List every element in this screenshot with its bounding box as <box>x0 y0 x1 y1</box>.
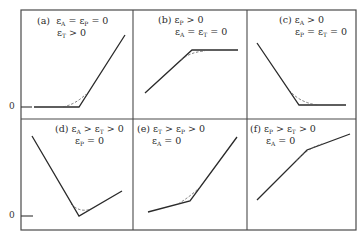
panel-b-curve <box>145 50 238 93</box>
panel-e-label-line2: εA = 0 <box>152 136 181 149</box>
panel-f-label-line2: εA = 0 <box>266 136 295 149</box>
panel-c-curve <box>257 43 346 105</box>
panel-a-label-line2: εT > 0 <box>57 28 86 41</box>
panel-a-curve <box>34 35 125 107</box>
zero-label-bottom: 0 <box>9 210 15 220</box>
panel-b-label-line2: εA = εT = 0 <box>175 27 227 40</box>
zero-label-top: 0 <box>9 101 15 111</box>
figure-frame <box>21 10 356 230</box>
panel-d-label-line2: εP = 0 <box>75 136 104 149</box>
panel-c-label-line2: εP = εT = 0 <box>295 27 347 40</box>
